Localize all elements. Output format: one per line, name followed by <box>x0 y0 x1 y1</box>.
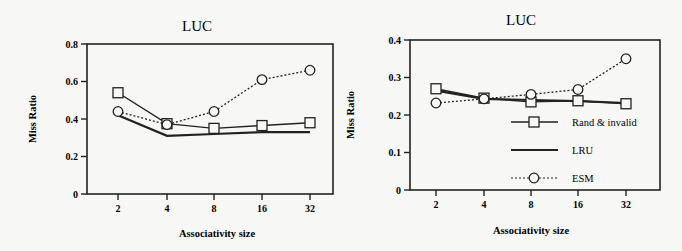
x-axis: 2481632 <box>434 190 632 210</box>
circle-marker-icon <box>431 98 441 108</box>
chart-left: LUC 00.20.40.60.8 2481632 Miss Ratio Ass… <box>27 18 333 239</box>
legend-item-esm: ESM <box>511 173 594 184</box>
legend: Rand & invalid LRU ESM <box>511 117 637 184</box>
series-group <box>113 65 315 135</box>
chart-title: LUC <box>182 18 212 34</box>
x-tick-label: 2 <box>116 203 121 214</box>
x-tick-label: 16 <box>257 203 267 214</box>
y-tick-label: 0.3 <box>389 72 402 83</box>
circle-marker-icon <box>209 107 219 117</box>
y-tick-label: 0.2 <box>66 151 79 162</box>
circle-marker-icon <box>113 107 123 117</box>
y-tick-label: 0.4 <box>66 114 79 125</box>
y-tick-label: 0 <box>73 189 78 200</box>
x-tick-label: 4 <box>482 199 487 210</box>
chart-title: LUC <box>506 12 536 28</box>
svg-text:LRU: LRU <box>572 145 593 156</box>
x-tick-label: 8 <box>212 203 217 214</box>
x-tick-label: 2 <box>434 199 439 210</box>
square-marker-icon <box>431 84 441 94</box>
square-marker-icon <box>529 117 539 127</box>
circle-marker-icon <box>305 65 315 75</box>
square-marker-icon <box>621 99 631 109</box>
y-tick-label: 0.8 <box>66 39 79 50</box>
square-marker-icon <box>257 121 267 131</box>
circle-marker-icon <box>526 90 536 100</box>
y-axis-label: Miss Ratio <box>27 95 38 143</box>
x-tick-label: 8 <box>529 199 534 210</box>
x-tick-label: 32 <box>621 199 631 210</box>
chart-right: LUC 00.10.20.30.4 2481632 Miss Ratio Ass… <box>345 12 660 236</box>
y-tick-label: 0 <box>396 185 401 196</box>
circle-marker-icon <box>529 173 539 183</box>
x-tick-label: 4 <box>165 203 170 214</box>
square-marker-icon <box>209 123 219 133</box>
legend-item-lru: LRU <box>511 145 593 156</box>
circle-marker-icon <box>257 75 267 85</box>
y-tick-label: 0.2 <box>389 110 402 121</box>
x-axis-label: Associativity size <box>179 228 255 239</box>
x-tick-label: 16 <box>573 199 583 210</box>
svg-text:Rand & invalid: Rand & invalid <box>572 117 637 128</box>
x-tick-label: 32 <box>305 203 315 214</box>
figure-canvas: LUC 00.20.40.60.8 2481632 Miss Ratio Ass… <box>0 0 682 251</box>
y-tick-label: 0.1 <box>389 147 402 158</box>
y-axis: 00.20.40.60.8 <box>66 39 88 200</box>
x-axis-label: Associativity size <box>493 225 569 236</box>
y-axis-label: Miss Ratio <box>345 91 356 139</box>
circle-marker-icon <box>479 94 489 104</box>
circle-marker-icon <box>162 120 172 130</box>
square-marker-icon <box>305 118 315 128</box>
y-axis: 00.10.20.30.4 <box>389 35 411 196</box>
square-marker-icon <box>113 88 123 98</box>
legend-item-rand-invalid: Rand & invalid <box>511 117 637 128</box>
circle-marker-icon <box>621 54 631 64</box>
x-axis: 2481632 <box>116 194 316 214</box>
series-group <box>431 54 631 109</box>
y-tick-label: 0.4 <box>389 35 402 46</box>
square-marker-icon <box>573 96 583 106</box>
y-tick-label: 0.6 <box>66 76 79 87</box>
plot-frame <box>87 44 333 194</box>
circle-marker-icon <box>573 85 583 95</box>
svg-text:ESM: ESM <box>572 173 594 184</box>
